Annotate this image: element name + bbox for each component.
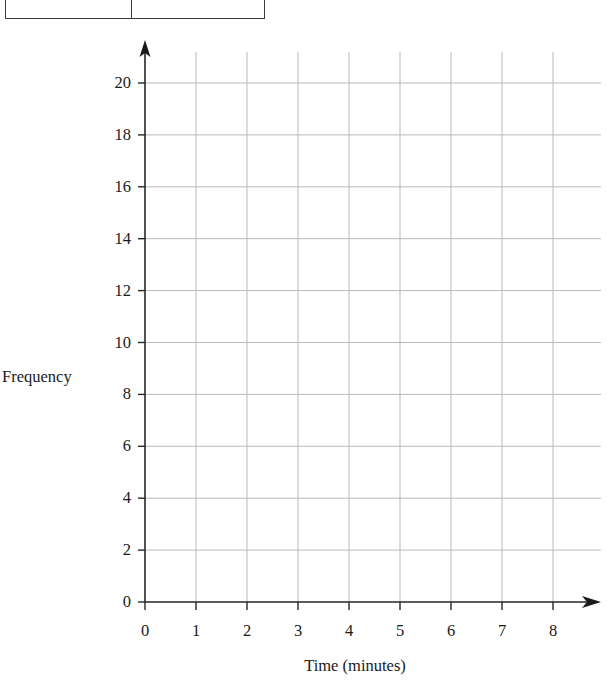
x-axis-tick-label: 4 [345, 623, 353, 640]
x-axis-tick-label: 8 [549, 623, 557, 640]
chart-tick-marks [138, 83, 553, 610]
y-axis-tick-label: 0 [89, 594, 131, 611]
y-axis-tick-label: 14 [89, 230, 131, 247]
x-axis-tick-label: 1 [192, 623, 200, 640]
y-axis-tick-label: 6 [89, 438, 131, 455]
chart-gridlines [145, 52, 601, 602]
y-axis-tick-label: 2 [89, 542, 131, 559]
x-axis-tick-label: 5 [396, 623, 404, 640]
y-axis-title: Frequency [2, 369, 72, 386]
x-axis-tick-label: 0 [141, 623, 149, 640]
x-axis-tick-label: 6 [447, 623, 455, 640]
y-axis-tick-label: 4 [89, 490, 131, 507]
x-axis-title: Time (minutes) [304, 658, 406, 675]
x-axis-tick-label: 3 [294, 623, 302, 640]
x-axis-tick-label: 2 [243, 623, 251, 640]
x-axis-tick-label: 7 [498, 623, 506, 640]
y-axis-tick-label: 16 [89, 179, 131, 196]
y-axis-tick-label: 8 [89, 386, 131, 403]
y-axis-tick-label: 10 [89, 334, 131, 351]
y-axis-tick-label: 18 [89, 127, 131, 144]
y-axis-tick-label: 12 [89, 282, 131, 299]
y-axis-tick-label: 20 [89, 75, 131, 92]
chart-axes [140, 40, 602, 608]
